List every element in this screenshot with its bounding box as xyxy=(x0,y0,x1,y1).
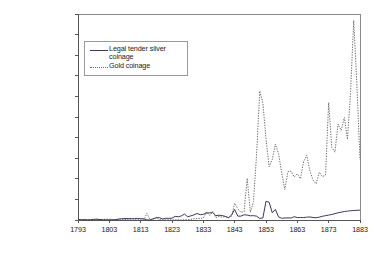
series-line-legal-tender-silver-coinage xyxy=(78,201,360,220)
legend-swatch-solid-line-icon xyxy=(89,46,109,55)
legend-entry-gold: Gold coinage xyxy=(89,62,184,72)
legend-label-silver: Legal tender silvercoinage xyxy=(109,45,166,62)
legend-label-gold: Gold coinage xyxy=(109,62,150,70)
coinage-line-chart: $0$10,000,000$20,000,000$30,000,000$40,0… xyxy=(0,0,378,262)
plot-area xyxy=(0,0,378,262)
legend-swatch-dotted-line-icon xyxy=(89,63,109,72)
chart-legend: Legal tender silvercoinage Gold coinage xyxy=(84,41,188,76)
legend-entry-silver: Legal tender silvercoinage xyxy=(89,45,184,62)
